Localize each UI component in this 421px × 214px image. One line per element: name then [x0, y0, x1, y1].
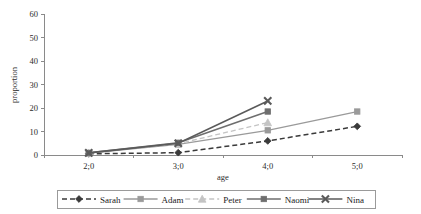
- series-marker: [265, 109, 270, 114]
- legend-items: SarahAdamPeterNaomiNina: [62, 195, 364, 205]
- y-axis-group: 0102030405060 proportion: [9, 9, 44, 160]
- y-tick-label: 30: [30, 80, 39, 90]
- x-tick-labels: 2;03;04;05;0: [83, 161, 362, 171]
- legend-item-sarah[interactable]: Sarah: [62, 195, 121, 205]
- x-tick-label: 5;0: [352, 161, 363, 171]
- y-tick-label: 40: [30, 56, 39, 66]
- legend-label: Sarah: [100, 195, 121, 205]
- series-marker: [264, 119, 272, 126]
- line-chart: 0102030405060 proportion 2;03;04;05;0 ag…: [0, 0, 421, 214]
- x-tick-label: 4;0: [262, 161, 273, 171]
- legend-label: Naomi: [285, 195, 310, 205]
- legend-label: Nina: [346, 195, 364, 205]
- legend: SarahAdamPeterNaomiNina: [57, 190, 375, 208]
- series-marker: [264, 97, 271, 104]
- legend-label: Adam: [162, 195, 184, 205]
- y-tick-label: 20: [30, 103, 39, 113]
- series-naomi: [86, 109, 270, 156]
- y-tick-label: 60: [30, 9, 39, 19]
- legend-marker: [261, 196, 266, 201]
- series-marker: [264, 138, 271, 145]
- series-line: [89, 123, 268, 154]
- legend-item-peter[interactable]: Peter: [185, 195, 242, 205]
- x-tick-label: 3;0: [173, 161, 184, 171]
- legend-label: Peter: [223, 195, 242, 205]
- legend-item-adam[interactable]: Adam: [124, 195, 184, 205]
- chart-canvas: 0102030405060 proportion 2;03;04;05;0 ag…: [0, 0, 421, 214]
- series-marker: [265, 128, 270, 133]
- series-marker: [355, 109, 360, 114]
- x-axis-title: age: [217, 172, 229, 182]
- series-layer: [85, 97, 361, 157]
- y-axis-title: proportion: [9, 66, 19, 103]
- legend-item-naomi[interactable]: Naomi: [247, 195, 310, 205]
- legend-marker: [76, 196, 83, 203]
- legend-item-nina[interactable]: Nina: [308, 195, 364, 205]
- legend-marker: [138, 196, 143, 201]
- x-tick-label: 2;0: [83, 161, 94, 171]
- y-tick-label: 10: [30, 127, 39, 137]
- series-nina: [85, 97, 271, 156]
- y-tick-labels: 0102030405060: [30, 9, 39, 160]
- series-line: [89, 112, 358, 154]
- series-sarah: [85, 123, 360, 157]
- x-axis-group: 2;03;04;05;0 age: [44, 155, 402, 182]
- series-marker: [354, 123, 361, 130]
- y-tick-label: 50: [30, 33, 39, 43]
- y-tick-label: 0: [34, 150, 38, 160]
